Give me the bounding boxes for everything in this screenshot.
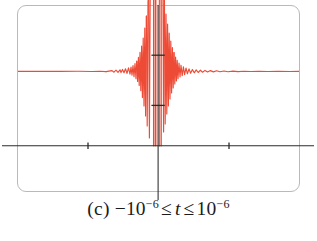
caption-relation-right: ≤ <box>182 198 197 219</box>
caption-panel-label: (c) <box>87 198 109 219</box>
caption-base-right: 10 <box>196 198 216 219</box>
figure-caption: (c) −10−6≤t≤10−6 <box>0 198 317 220</box>
caption-base-left: 10 <box>126 198 146 219</box>
plot-frame <box>17 5 300 192</box>
figure-panel-c: (c) −10−6≤t≤10−6 <box>0 0 317 241</box>
caption-relation-left: ≤ <box>159 198 174 219</box>
caption-variable: t <box>174 198 182 219</box>
caption-exponent-right: −6 <box>216 197 229 211</box>
caption-exponent-left: −6 <box>146 197 159 211</box>
caption-minus-sign: − <box>115 198 126 219</box>
